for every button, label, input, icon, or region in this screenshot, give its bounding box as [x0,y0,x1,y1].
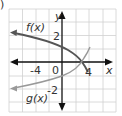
curve-f-arrow-icon [10,30,17,37]
g-label: g(x) [26,92,48,105]
x-tick-0: 0 [52,64,59,77]
f-label: f(x) [26,21,45,34]
x-tick-neg4: -4 [30,64,41,77]
problem-marker: ) [0,0,4,11]
coordinate-graph: ) f(x) g(x) y x -4 0 4 2 -2 [0,0,122,116]
y-tick-2: 2 [53,30,60,43]
y-axis-down-arrow-icon [59,103,66,111]
curve-g-arrow-icon [10,86,17,92]
x-tick-4: 4 [85,66,92,79]
y-axis-label: y [54,10,62,23]
curve-f [14,33,88,72]
x-axis-label: x [105,64,113,77]
x-axis-left-arrow-icon [10,59,18,66]
y-tick-neg2: -2 [47,84,58,97]
